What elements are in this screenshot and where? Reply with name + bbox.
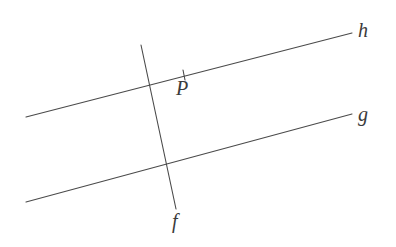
point-label-p: P [176,78,188,98]
line-f [141,45,176,209]
diagram-svg [0,0,396,247]
line-label-h: h [358,20,368,40]
line-g [26,114,352,202]
line-label-f: f [172,211,178,231]
line-h [26,33,352,117]
geometry-diagram-canvas: h g f P [0,0,396,247]
line-label-g: g [358,104,368,124]
